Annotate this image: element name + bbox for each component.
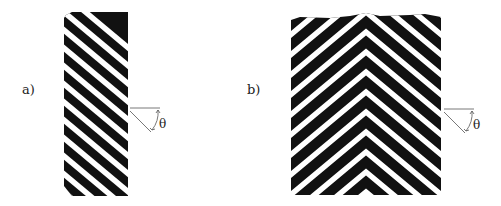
figure-canvas: θ θ — [0, 0, 501, 206]
angle-annotation-b — [444, 109, 474, 133]
theta-symbol-b: θ — [473, 118, 480, 132]
angle-annotation-a — [130, 108, 160, 132]
panel-a-stripes — [40, 0, 150, 206]
theta-symbol-a: θ — [159, 117, 166, 131]
panel-b-chevron-stripes — [246, 0, 486, 206]
